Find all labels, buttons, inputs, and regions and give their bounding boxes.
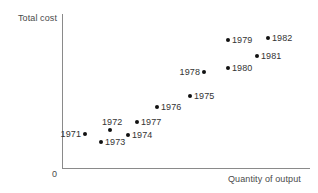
data-point-label: 1979 <box>232 35 252 45</box>
data-point <box>108 128 112 132</box>
data-point <box>202 70 206 74</box>
data-point-label: 1974 <box>132 130 152 140</box>
data-point <box>126 133 130 137</box>
data-point <box>83 132 87 136</box>
y-axis-line <box>62 14 63 169</box>
scatter-chart: Total cost Quantity of output 0 19711972… <box>0 0 318 193</box>
y-axis-title: Total cost <box>18 13 57 23</box>
origin-label: 0 <box>52 169 57 179</box>
x-axis-line <box>62 168 310 169</box>
data-point <box>255 54 259 58</box>
data-point <box>188 94 192 98</box>
data-point-label: 1975 <box>194 91 214 101</box>
data-point-label: 1980 <box>232 63 252 73</box>
data-point-label: 1973 <box>105 137 125 147</box>
data-point-label: 1981 <box>261 51 281 61</box>
data-point <box>266 36 270 40</box>
data-point-label: 1982 <box>272 33 292 43</box>
data-point <box>155 105 159 109</box>
data-point-label: 1978 <box>180 67 200 77</box>
data-point <box>99 140 103 144</box>
data-point-label: 1977 <box>141 117 161 127</box>
data-point-label: 1971 <box>61 129 81 139</box>
data-point-label: 1976 <box>161 102 181 112</box>
data-point-label: 1972 <box>102 117 122 127</box>
data-point <box>135 120 139 124</box>
data-point <box>226 38 230 42</box>
data-point <box>226 66 230 70</box>
x-axis-title: Quantity of output <box>228 174 301 184</box>
